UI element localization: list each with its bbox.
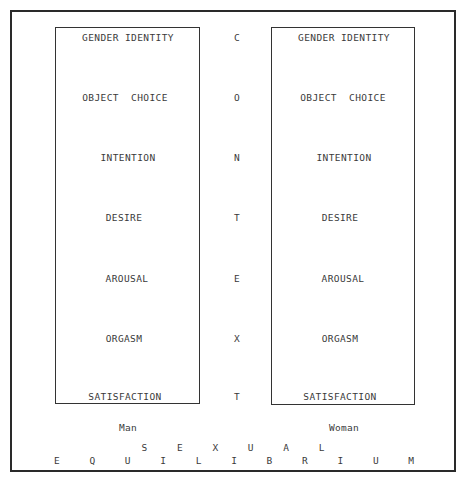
man-satisfaction: SATISFACTION: [88, 391, 161, 402]
man-label: Man: [119, 422, 137, 433]
man-object-choice: OBJECT CHOICE: [82, 92, 168, 103]
context-letter-n: N: [234, 152, 240, 163]
woman-gender-identity: GENDER IDENTITY: [298, 32, 390, 43]
context-letter-t: T: [234, 212, 240, 223]
woman-orgasm: ORGASM: [322, 333, 359, 344]
woman-arousal: AROUSAL: [322, 273, 365, 284]
woman-desire: DESIRE: [322, 212, 359, 223]
context-letter-c: C: [234, 32, 240, 43]
woman-object-choice: OBJECT CHOICE: [300, 92, 386, 103]
title-line-2: E Q U I L I B R I U M: [54, 455, 426, 466]
man-gender-identity: GENDER IDENTITY: [82, 32, 174, 43]
woman-label: Woman: [329, 422, 359, 433]
man-arousal: AROUSAL: [106, 273, 149, 284]
context-letter-x: X: [234, 333, 240, 344]
man-orgasm: ORGASM: [106, 333, 143, 344]
woman-intention: INTENTION: [316, 152, 371, 163]
context-letter-e: E: [234, 273, 240, 284]
title-line-1: S E X U A L: [142, 442, 337, 453]
man-desire: DESIRE: [106, 212, 143, 223]
man-intention: INTENTION: [100, 152, 155, 163]
context-letter-t2: T: [234, 391, 240, 402]
context-letter-o: O: [234, 92, 240, 103]
woman-satisfaction: SATISFACTION: [303, 391, 376, 402]
